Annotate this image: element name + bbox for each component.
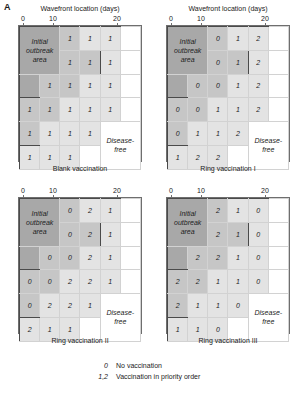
cell: 1	[80, 50, 100, 74]
cell	[20, 246, 40, 270]
plot-ring-vaccination-2: Initial outbreak area 0 2 1 0 2 1 0 0 2	[18, 197, 142, 334]
disease-free-label: Disease- free	[100, 294, 140, 342]
table-row: 1 1 1 1 Disease- free	[20, 122, 141, 146]
outbreak-area-label: Initial outbreak area	[168, 199, 208, 247]
cell: 0	[60, 199, 80, 223]
table-row: Initial outbreak area 2 1 0	[168, 199, 289, 223]
cell: 1	[228, 50, 248, 74]
legend-key: 0	[86, 360, 108, 371]
cell: 2	[80, 246, 100, 270]
disease-free-label: Disease- free	[248, 122, 288, 170]
cell	[268, 98, 288, 122]
caption-blank-vaccination: Blank vaccination	[12, 164, 148, 173]
cell: 2	[248, 27, 268, 51]
cell: 1	[188, 122, 208, 146]
cell: 1	[60, 27, 80, 51]
tick-label-0: 0	[169, 186, 173, 195]
tick-label-0: 0	[169, 14, 173, 23]
cell: 2	[60, 270, 80, 294]
cell	[268, 246, 288, 270]
legend: 0 No vaccination 1,2 Vaccination in prio…	[86, 360, 200, 382]
cell: 2	[80, 199, 100, 223]
cell: 0	[208, 50, 228, 74]
tick-label-20: 20	[113, 186, 121, 195]
cell: 0	[60, 222, 80, 246]
table-row: 0 0 1 1 2	[168, 98, 289, 122]
cell: 1	[100, 270, 120, 294]
table-row: 0 2 2 1 Disease- free	[20, 294, 141, 318]
cell: 2	[208, 199, 228, 223]
cell: 1	[208, 294, 228, 318]
cell-grid-ring-vaccination-1: Initial outbreak area 0 1 2 0 1 2 0 0 1	[167, 26, 289, 170]
cell: 1	[228, 27, 248, 51]
cell: 1	[228, 74, 248, 98]
cell: 1	[188, 294, 208, 318]
cell: 1	[100, 74, 120, 98]
plot-ring-vaccination-1: Initial outbreak area 0 1 2 0 1 2 0 0 1	[166, 25, 290, 162]
cell: 1	[20, 122, 40, 146]
disease-free-label: Disease- free	[248, 294, 288, 342]
cell: 0	[20, 270, 40, 294]
cell	[268, 222, 288, 246]
cell: 2	[60, 294, 80, 318]
panel-letter-a: A	[4, 2, 11, 12]
cell: 1	[100, 199, 120, 223]
cell	[168, 74, 188, 98]
cell: 1	[208, 270, 228, 294]
outbreak-area-label: Initial outbreak area	[20, 199, 60, 247]
cell: 0	[208, 27, 228, 51]
cell	[268, 50, 288, 74]
cell: 2	[248, 50, 268, 74]
tick-label-10: 10	[197, 186, 205, 195]
cell: 1	[228, 222, 248, 246]
tick-label-0: 0	[21, 186, 25, 195]
plot-ring-vaccination-3: Initial outbreak area 2 1 0 2 1 0 2 2 1	[166, 197, 290, 334]
tick-label-20: 20	[113, 14, 121, 23]
cell: 1	[40, 122, 60, 146]
axis-ticklabels-top-right: 0 10 20	[160, 14, 296, 23]
legend-item-priority-order: 1,2 Vaccination in priority order	[86, 371, 200, 382]
cell: 2	[168, 294, 188, 318]
cell: 1	[208, 98, 228, 122]
tick-label-10: 10	[49, 186, 57, 195]
axis-ticklabels-top-left: 0 10 20	[12, 14, 148, 23]
cell	[268, 74, 288, 98]
cell: 0	[208, 74, 228, 98]
cell: 1	[100, 98, 120, 122]
axis-ticklabels-bottom-left: 0 10 20	[12, 186, 148, 195]
cell: 1	[228, 199, 248, 223]
cell: 1	[60, 74, 80, 98]
cell: 1	[20, 98, 40, 122]
axis-title-top-left: Wavefront location (days)	[12, 4, 148, 13]
legend-item-no-vaccination: 0 No vaccination	[86, 360, 200, 371]
cell: 2	[40, 294, 60, 318]
cell: 0	[248, 199, 268, 223]
table-row: 2 1 1 0 Disease- free	[168, 294, 289, 318]
cell	[268, 199, 288, 223]
plot-blank-vaccination: Initial outbreak area 1 1 1 1 1 1 1 1 1	[18, 25, 142, 162]
table-row: Initial outbreak area 0 2 1	[20, 199, 141, 223]
cell: 2	[208, 222, 228, 246]
tick-label-20: 20	[261, 186, 269, 195]
table-row: 2 2 1 0	[168, 246, 289, 270]
cell: 1	[60, 98, 80, 122]
tick-label-20: 20	[261, 14, 269, 23]
legend-key: 1,2	[86, 371, 108, 382]
cell: 1	[100, 246, 120, 270]
cell: 2	[168, 270, 188, 294]
cell: 2	[208, 246, 228, 270]
cell-grid-ring-vaccination-2: Initial outbreak area 0 2 1 0 2 1 0 0 2	[19, 198, 141, 342]
cell: 1	[228, 246, 248, 270]
cell: 1	[100, 27, 120, 51]
cell: 2	[248, 98, 268, 122]
cell: 0	[60, 246, 80, 270]
cell: 0	[248, 270, 268, 294]
tick-label-10: 10	[49, 14, 57, 23]
disease-free-label: Disease- free	[100, 122, 140, 170]
legend-label: No vaccination	[116, 360, 162, 371]
cell: 0	[168, 122, 188, 146]
cell: 2	[188, 246, 208, 270]
cell	[20, 74, 40, 98]
table-row: 1 1 1 1 1	[20, 98, 141, 122]
axis-title-top-right: Wavefront location (days)	[160, 4, 296, 13]
